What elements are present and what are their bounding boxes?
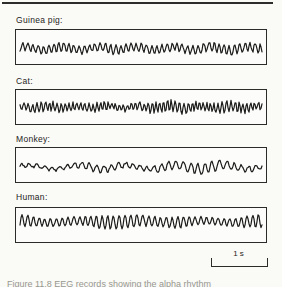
top-rule: [2, 2, 273, 4]
panel-label-cat: Cat:: [16, 76, 33, 86]
trace-box-human: [15, 207, 267, 243]
trace-box-guinea-pig: [15, 29, 267, 65]
panel-label-human: Human:: [16, 192, 48, 202]
eeg-trace-monkey: [16, 148, 266, 182]
eeg-trace-cat: [16, 90, 266, 124]
panel-label-guinea-pig: Guinea pig:: [16, 15, 63, 25]
trace-box-monkey: [15, 147, 267, 183]
scale-bar: [211, 258, 268, 267]
scale-bar-label: 1 s: [211, 249, 266, 258]
figure-caption: Figure 11.8 EEG records showing the alph…: [7, 279, 282, 287]
panel-label-monkey: Monkey:: [16, 134, 50, 144]
eeg-trace-human: [16, 208, 266, 242]
trace-box-cat: [15, 89, 267, 125]
eeg-trace-guinea-pig: [16, 30, 266, 64]
